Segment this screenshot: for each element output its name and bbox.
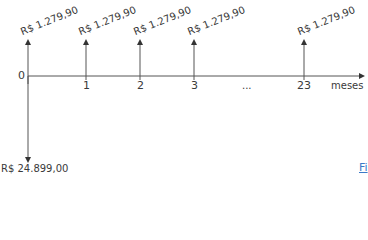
tick-label-23: 23 (297, 79, 311, 92)
tick-label-ellipsis: ... (242, 80, 252, 91)
tick-label-1: 1 (83, 79, 90, 92)
corner-link[interactable]: Fi (359, 161, 368, 174)
outflow-label: R$ 24.899,00 (1, 163, 68, 174)
axis-unit-label: meses (331, 80, 363, 91)
origin-label: 0 (18, 69, 25, 82)
tick-label-3: 3 (191, 79, 198, 92)
tick-label-2: 2 (137, 79, 144, 92)
